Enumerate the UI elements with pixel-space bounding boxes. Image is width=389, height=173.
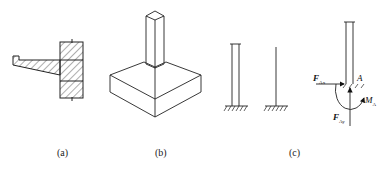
figure-b-footing bbox=[110, 11, 201, 117]
label-m-a-main: M bbox=[365, 95, 373, 105]
caption-b: (b) bbox=[155, 147, 167, 158]
figure-c-columns bbox=[224, 44, 288, 111]
caption-c: (c) bbox=[289, 147, 300, 158]
label-f-ax-sub: Ax bbox=[319, 80, 325, 85]
label-f-ax: FAx bbox=[313, 73, 325, 85]
label-point-a: A bbox=[357, 73, 363, 83]
figure-a-cantilever bbox=[13, 39, 83, 101]
caption-a: (a) bbox=[57, 147, 68, 158]
label-m-a-sub: A bbox=[373, 102, 377, 107]
label-m-a: MA bbox=[365, 95, 376, 107]
label-f-ay: FAy bbox=[333, 112, 345, 124]
label-f-ay-sub: Ay bbox=[339, 119, 345, 124]
